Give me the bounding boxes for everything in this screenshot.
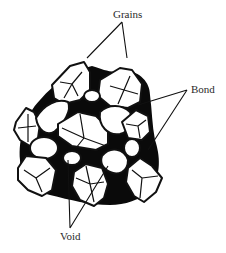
grains: [14, 62, 162, 206]
grains-leader: [87, 22, 127, 58]
grain: [63, 151, 81, 165]
grain: [30, 137, 58, 159]
abrasive-structure-diagram: [0, 0, 226, 253]
label-bond: Bond: [191, 84, 215, 95]
grain: [124, 139, 140, 157]
label-void: Void: [60, 231, 81, 242]
grain: [18, 156, 56, 196]
grain: [84, 90, 100, 102]
label-grains: Grains: [113, 9, 142, 20]
